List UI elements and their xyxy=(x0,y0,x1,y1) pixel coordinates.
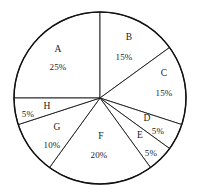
slice-label-e: E xyxy=(137,131,143,141)
slice-value-h: 5% xyxy=(22,110,34,119)
slice-value-f: 20% xyxy=(90,151,107,160)
slice-value-e: 5% xyxy=(145,149,157,158)
slice-label-b: B xyxy=(126,33,133,43)
slice-label-g: G xyxy=(53,123,60,133)
slice-value-d: 5% xyxy=(152,127,164,136)
slice-label-d: D xyxy=(143,114,150,124)
slice-label-h: H xyxy=(43,102,50,112)
slice-label-c: C xyxy=(161,69,168,79)
slice-value-g: 10% xyxy=(43,141,60,150)
pie-slice-a[interactable] xyxy=(14,12,100,98)
slice-value-c: 15% xyxy=(155,89,172,98)
slice-label-f: F xyxy=(98,132,103,142)
slice-label-a: A xyxy=(54,45,61,55)
slice-value-b: 15% xyxy=(115,53,132,62)
pie-chart: A25%B15%C15%D5%E5%F20%G10%H5% xyxy=(0,0,202,192)
slice-value-a: 25% xyxy=(49,63,66,72)
